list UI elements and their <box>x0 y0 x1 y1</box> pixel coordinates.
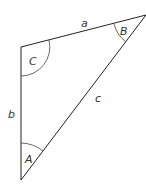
side-label-c: c <box>95 92 101 105</box>
triangle-shape <box>21 15 146 180</box>
triangle-diagram: C B A a b c <box>0 0 146 192</box>
side-label-a: a <box>81 17 88 30</box>
side-label-b: b <box>8 108 15 121</box>
angle-label-b: B <box>120 25 128 38</box>
angle-label-c: C <box>29 55 37 68</box>
angle-arc-a <box>21 143 43 151</box>
angle-label-a: A <box>24 153 33 166</box>
